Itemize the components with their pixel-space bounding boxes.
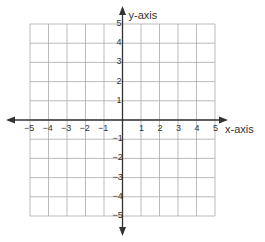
x-tick-label: −5 (24, 124, 34, 133)
x-tick-label: 1 (139, 124, 144, 133)
x-tick-label: 4 (195, 124, 200, 133)
x-tick-label: 3 (176, 124, 181, 133)
y-tick-label: 3 (117, 57, 122, 66)
arrow-left-icon (6, 117, 15, 124)
x-tick-label: 2 (158, 124, 163, 133)
x-axis-label: x-axis (225, 124, 254, 135)
coordinate-plane (0, 0, 265, 242)
arrow-down-icon (119, 227, 126, 236)
y-tick-label: −1 (113, 134, 123, 143)
x-tick-label: −2 (80, 124, 90, 133)
y-tick-label: −3 (113, 173, 123, 182)
y-tick-label: −4 (113, 192, 123, 201)
x-tick-label: 5 (213, 124, 218, 133)
y-tick-label: 4 (117, 38, 122, 47)
arrow-up-icon (119, 6, 126, 15)
x-tick-label: −1 (98, 124, 108, 133)
y-tick-label: 2 (117, 77, 122, 86)
x-tick-label: −4 (43, 124, 53, 133)
y-tick-label: −5 (113, 211, 123, 220)
y-axis-label: y-axis (129, 10, 158, 21)
y-tick-label: −2 (113, 153, 123, 162)
x-tick-label: −3 (61, 124, 71, 133)
y-tick-label: 5 (117, 19, 122, 28)
y-tick-label: 1 (117, 96, 122, 105)
